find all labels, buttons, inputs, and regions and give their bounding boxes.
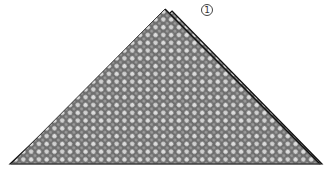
origami-diagram: [0, 0, 328, 174]
step-number: 1: [201, 4, 213, 16]
step-number-badge: 1: [201, 4, 213, 16]
paper-triangle: [12, 9, 318, 163]
